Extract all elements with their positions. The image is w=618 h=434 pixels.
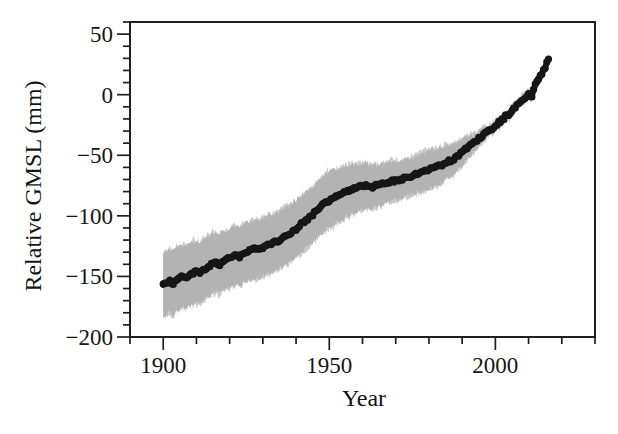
gmsl-sea-level-figure: 190019502000500−50−100−150−200 Year Rela…: [0, 0, 618, 434]
y-tick-label: 0: [102, 83, 114, 108]
chart-canvas: 190019502000500−50−100−150−200: [0, 0, 618, 434]
data-point: [528, 93, 535, 100]
y-tick-label: −150: [66, 264, 113, 289]
x-axis-title: Year: [342, 385, 386, 412]
y-tick-label: −100: [66, 204, 113, 229]
data-point: [542, 65, 549, 72]
y-tick-label: −200: [66, 325, 113, 350]
x-tick-label: 2000: [472, 353, 518, 378]
x-tick-label: 1950: [306, 353, 352, 378]
y-tick-label: −50: [77, 143, 113, 168]
y-axis-title: Relative GMSL (mm): [20, 80, 47, 291]
x-tick-label: 1900: [140, 353, 186, 378]
tick-labels: 190019502000500−50−100−150−200: [66, 22, 519, 378]
data-point: [545, 56, 552, 63]
y-tick-label: 50: [90, 22, 113, 47]
